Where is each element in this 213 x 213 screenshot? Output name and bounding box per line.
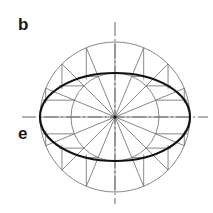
figure-label-e: e: [18, 125, 27, 142]
center-point: [113, 115, 116, 118]
figure-label-b: b: [18, 16, 28, 33]
construction-drawing: [0, 0, 213, 213]
ellipse-construction-figure: b e: [0, 0, 213, 213]
